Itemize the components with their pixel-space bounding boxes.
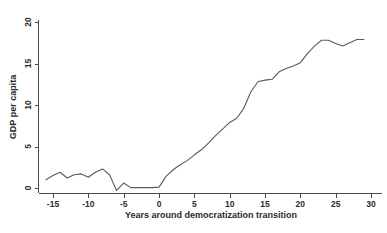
y-tick-label: 5 <box>23 144 33 149</box>
y-tick-label: 20 <box>23 17 33 27</box>
y-axis-title: GDP per capita <box>8 74 18 139</box>
x-tick-label: 5 <box>192 199 197 209</box>
y-tick-label: 15 <box>23 59 33 69</box>
x-tick-label: 30 <box>366 199 376 209</box>
chart-figure: 05101520 -15-10-5051015202530 GDP per ca… <box>0 0 387 233</box>
x-tick-label: -10 <box>82 199 95 209</box>
x-tick-label: 10 <box>225 199 235 209</box>
x-tick-label: -5 <box>120 199 128 209</box>
chart-canvas: 05101520 -15-10-5051015202530 GDP per ca… <box>0 0 387 233</box>
y-tick-label: 0 <box>23 185 33 190</box>
y-tick-label: 10 <box>23 100 33 110</box>
x-tick-label: 25 <box>331 199 341 209</box>
x-tick-label: 20 <box>296 199 306 209</box>
x-axis-title: Years around democratization transition <box>125 210 297 220</box>
x-tick-label: 15 <box>260 199 270 209</box>
x-tick-label: -15 <box>47 199 60 209</box>
x-tick-label: 0 <box>157 199 162 209</box>
